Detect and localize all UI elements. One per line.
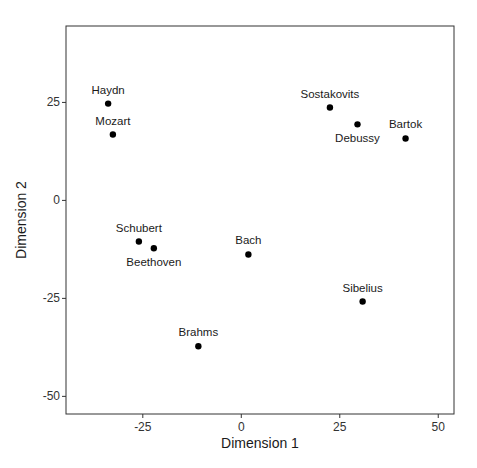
point-marker: [354, 121, 360, 127]
point-label: Brahms: [179, 326, 219, 338]
point-label: Bach: [235, 234, 261, 246]
point-marker: [402, 135, 408, 141]
point-marker: [136, 238, 142, 244]
point-marker: [245, 251, 251, 257]
y-tick-label: 25: [47, 95, 61, 109]
scatter-chart: -2502550 -50-25025 HaydnMozartSchubertBe…: [0, 0, 477, 468]
x-tick-label: -25: [134, 420, 152, 434]
x-tick-label: 0: [238, 420, 245, 434]
point-label: Debussy: [335, 132, 380, 144]
point-label: Haydn: [92, 84, 125, 96]
y-axis-title: Dimension 2: [13, 181, 29, 259]
point-marker: [195, 343, 201, 349]
point-label: Mozart: [95, 115, 131, 127]
x-tick-label: 50: [432, 420, 446, 434]
x-axis-title: Dimension 1: [221, 435, 299, 451]
y-tick-label: -25: [43, 291, 61, 305]
point-label: Sostakovits: [301, 88, 360, 100]
point-label: Sibelius: [342, 282, 383, 294]
x-tick-label: 25: [333, 420, 347, 434]
point-label: Bartok: [389, 118, 422, 130]
point-label: Schubert: [116, 222, 163, 234]
point-marker: [359, 298, 365, 304]
point-marker: [110, 131, 116, 137]
y-tick-label: -50: [43, 389, 61, 403]
point-marker: [151, 245, 157, 251]
point-marker: [105, 100, 111, 106]
point-label: Beethoven: [126, 256, 181, 268]
y-axis: -50-25025: [43, 95, 66, 403]
y-tick-label: 0: [53, 193, 60, 207]
x-axis: -2502550: [134, 414, 445, 434]
point-marker: [327, 104, 333, 110]
